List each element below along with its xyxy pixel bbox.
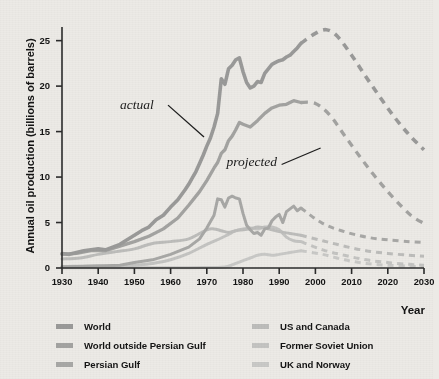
y-tick-label: 5 bbox=[26, 217, 50, 228]
y-axis-title: Annual oil production (billions of barre… bbox=[24, 12, 36, 280]
legend-item[interactable]: UK and Norway bbox=[252, 355, 373, 374]
projected-line bbox=[301, 30, 424, 150]
x-tick-label: 1950 bbox=[117, 277, 151, 287]
annotation-actual: actual bbox=[120, 97, 154, 113]
y-tick-label: 0 bbox=[26, 262, 50, 273]
x-tick-label: 2030 bbox=[407, 277, 439, 287]
y-tick-label: 10 bbox=[26, 171, 50, 182]
projected-line bbox=[301, 251, 424, 267]
x-tick-label: 1930 bbox=[45, 277, 79, 287]
legend-column-left: WorldWorld outside Persian GulfPersian G… bbox=[56, 317, 206, 374]
series-persian-gulf bbox=[62, 196, 424, 266]
projected-line bbox=[301, 208, 424, 243]
actual-line bbox=[62, 227, 301, 267]
series-world bbox=[62, 30, 424, 255]
actual-line bbox=[62, 43, 301, 254]
projected-line bbox=[301, 235, 424, 256]
x-tick-label: 2010 bbox=[335, 277, 369, 287]
legend-swatch-icon bbox=[252, 362, 269, 367]
legend-item[interactable]: Persian Gulf bbox=[56, 355, 206, 374]
legend-item-label: Former Soviet Union bbox=[280, 340, 373, 351]
actual-leader-line bbox=[168, 105, 204, 137]
x-tick-label: 2020 bbox=[371, 277, 405, 287]
y-tick-label: 20 bbox=[26, 80, 50, 91]
x-tick-label: 1970 bbox=[190, 277, 224, 287]
annotation-projected: projected bbox=[227, 154, 277, 170]
legend-swatch-icon bbox=[56, 343, 73, 348]
x-tick-label: 1980 bbox=[226, 277, 260, 287]
legend-item-label: World bbox=[84, 321, 111, 332]
legend-item[interactable]: Former Soviet Union bbox=[252, 336, 373, 355]
legend-swatch-icon bbox=[252, 343, 269, 348]
legend-swatch-icon bbox=[56, 362, 73, 367]
actual-line bbox=[62, 101, 301, 255]
legend-item-label: World outside Persian Gulf bbox=[84, 340, 206, 351]
x-tick-label: 2000 bbox=[298, 277, 332, 287]
series-us-and-canada bbox=[62, 227, 424, 259]
x-axis-title: Year bbox=[401, 304, 425, 316]
chart-legend: WorldWorld outside Persian GulfPersian G… bbox=[56, 317, 428, 375]
legend-item[interactable]: World bbox=[56, 317, 206, 336]
legend-swatch-icon bbox=[56, 324, 73, 329]
y-tick-label: 15 bbox=[26, 126, 50, 137]
projected-leader-line bbox=[282, 148, 321, 165]
legend-column-right: US and CanadaFormer Soviet UnionUK and N… bbox=[252, 317, 373, 374]
x-tick-label: 1960 bbox=[154, 277, 188, 287]
legend-item[interactable]: US and Canada bbox=[252, 317, 373, 336]
x-tick-label: 1940 bbox=[81, 277, 115, 287]
projected-line bbox=[301, 102, 424, 223]
legend-swatch-icon bbox=[252, 324, 269, 329]
x-tick-label: 1990 bbox=[262, 277, 296, 287]
y-tick-label: 25 bbox=[26, 35, 50, 46]
projected-line bbox=[301, 242, 424, 266]
series-layer bbox=[62, 30, 424, 268]
legend-item-label: UK and Norway bbox=[280, 359, 350, 370]
legend-item[interactable]: World outside Persian Gulf bbox=[56, 336, 206, 355]
legend-item-label: US and Canada bbox=[280, 321, 350, 332]
legend-item-label: Persian Gulf bbox=[84, 359, 140, 370]
